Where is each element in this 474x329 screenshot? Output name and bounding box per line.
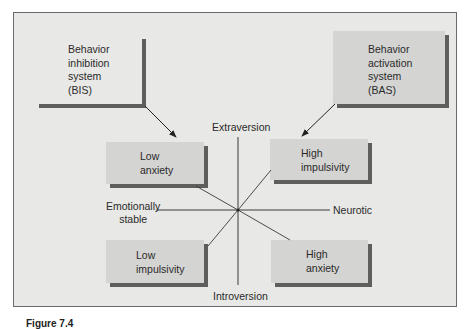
axis-label-extraversion: Extraversion — [212, 121, 270, 134]
axis-label-neurotic: Neurotic — [333, 204, 372, 217]
axis-label-emotionally-stable: Emotionally stable — [106, 200, 160, 226]
axis-label-left-line-2: stable — [106, 213, 160, 226]
axis-label-left-line-1: Emotionally — [106, 200, 160, 213]
axis-label-introversion: Introversion — [213, 290, 268, 303]
figure-caption: Figure 7.4 — [26, 318, 73, 329]
